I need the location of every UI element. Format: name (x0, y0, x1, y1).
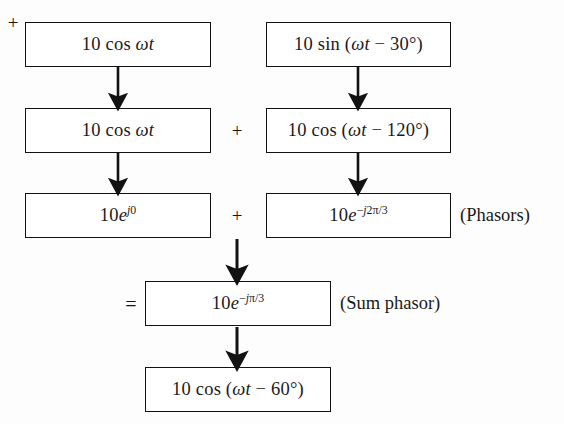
box-cos-wt-row2: 10cosωt (25, 108, 211, 153)
expr-sin-wt-30: 10sin(ωt−30°) (294, 35, 423, 54)
box-phasor-sum: 10e−jπ/3 (145, 281, 331, 326)
box-cos-wt-60-result: 10cos(ωt−60°) (145, 367, 331, 412)
box-phasor-left: 10ej0 (25, 193, 211, 238)
label-sum-phasor: (Sum phasor) (340, 281, 440, 326)
expr-cos-wt-120: 10cos(ωt−120°) (288, 121, 429, 140)
expr-cos-wt-60: 10cos(ωt−60°) (172, 380, 304, 399)
expr-phasor-left: 10ej0 (100, 206, 137, 225)
operator-plus-row1: + (0, 0, 26, 45)
box-phasor-right: 10e−j2π/3 (266, 193, 451, 238)
expr-phasor-sum: 10e−jπ/3 (212, 294, 264, 313)
operator-equals-row4: = (118, 281, 144, 326)
box-cos-wt-120-row2: 10cos(ωt−120°) (266, 108, 451, 153)
box-cos-wt-row1: 10cosωt (25, 22, 211, 67)
expr-phasor-right: 10e−j2π/3 (329, 206, 387, 225)
phasor-flow-diagram: 10cosωt + 10sin(ωt−30°) 10cosωt + 10cos(… (0, 0, 564, 424)
operator-plus-row3: + (224, 193, 250, 238)
operator-plus-row2: + (224, 108, 250, 153)
box-sin-wt-30-row1: 10sin(ωt−30°) (266, 22, 451, 67)
label-phasors: (Phasors) (460, 193, 530, 238)
expr-cos-wt-row2: 10cosωt (82, 121, 154, 140)
expr-cos-wt-row1: 10cosωt (82, 35, 154, 54)
